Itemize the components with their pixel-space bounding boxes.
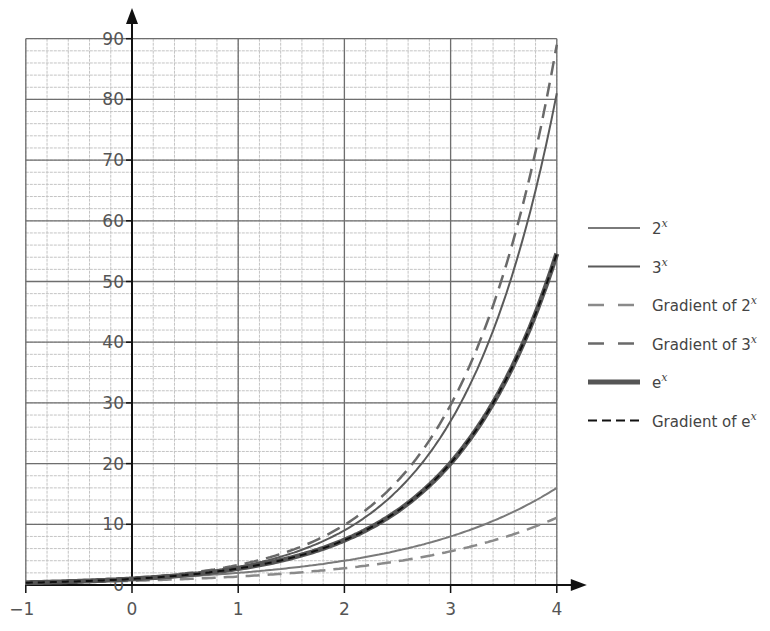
y-tick-label: 50 <box>102 272 124 292</box>
legend-label-superscript: x <box>751 333 758 346</box>
y-axis-arrow-icon <box>126 8 138 24</box>
legend-label: ex <box>652 371 668 392</box>
legend-label: Gradient of 2x <box>652 294 758 315</box>
legend-label-superscript: x <box>751 294 758 307</box>
legend-label: 2x <box>652 217 669 238</box>
curves <box>26 45 557 583</box>
legend: 2x3xGradient of 2xGradient of 3xexGradie… <box>588 217 758 431</box>
x-tick-label: 3 <box>445 599 456 619</box>
y-tick-label: 60 <box>102 211 124 231</box>
major-grid <box>26 39 557 585</box>
y-tick-label: 70 <box>102 150 124 170</box>
y-tick-label: 20 <box>102 454 124 474</box>
legend-item: ex <box>588 371 668 392</box>
x-tick-label: −1 <box>9 599 34 619</box>
legend-label-superscript: x <box>751 410 758 423</box>
y-tick-label: 80 <box>102 89 124 109</box>
legend-label-superscript: x <box>662 217 669 230</box>
y-tick-label: 90 <box>102 29 124 49</box>
minor-grid <box>26 39 557 585</box>
series-2-x <box>26 488 557 582</box>
legend-item: Gradient of 3x <box>588 333 758 354</box>
x-tick-label: 1 <box>233 599 244 619</box>
legend-item: 3x <box>588 256 669 277</box>
legend-label-superscript: x <box>661 371 668 384</box>
legend-item: Gradient of ex <box>588 410 758 431</box>
legend-item: 2x <box>588 217 669 238</box>
x-tick-label: 0 <box>127 599 138 619</box>
legend-item: Gradient of 2x <box>588 294 758 315</box>
y-tick-label: 30 <box>102 393 124 413</box>
x-axis-arrow-icon <box>571 579 587 591</box>
series-gradient-of-3-x <box>26 45 557 583</box>
y-tick-label: 40 <box>102 332 124 352</box>
legend-label: 3x <box>652 256 669 277</box>
x-tick-label: 2 <box>339 599 350 619</box>
x-tick-label: 4 <box>551 599 562 619</box>
exponential-chart: −1012340102030405060708090 2x3xGradient … <box>0 0 770 631</box>
legend-label-superscript: x <box>662 256 669 269</box>
legend-label: Gradient of 3x <box>652 333 758 354</box>
tick-labels: −1012340102030405060708090 <box>9 29 562 619</box>
y-tick-label: 10 <box>102 514 124 534</box>
legend-label: Gradient of ex <box>652 410 758 431</box>
